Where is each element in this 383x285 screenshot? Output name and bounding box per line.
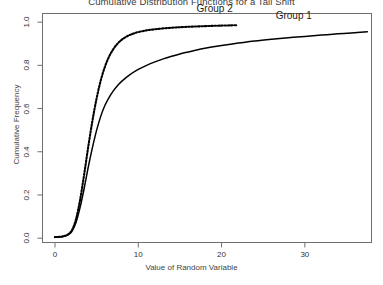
y-tick-label: 0.8 — [21, 56, 30, 74]
series-paths — [55, 25, 367, 237]
x-tick-label: 0 — [53, 250, 57, 259]
x-tick-label: 20 — [217, 250, 226, 259]
x-tick-label: 30 — [300, 250, 309, 259]
plot-area — [0, 0, 383, 285]
y-tick-label: 0.4 — [21, 143, 30, 161]
chart-figure: Cumulative Distribution Functions for a … — [0, 0, 383, 285]
y-tick-label: 1.0 — [21, 13, 30, 31]
series-line-1 — [55, 32, 367, 237]
x-tick-label: 10 — [134, 250, 143, 259]
y-axis-ticks — [38, 22, 43, 238]
x-axis-ticks — [55, 243, 305, 248]
x-axis-label: Value of Random Variable — [0, 263, 383, 272]
y-tick-label: 0.0 — [21, 229, 30, 247]
y-tick-label: 0.6 — [21, 100, 30, 118]
series-label-2: Group 2 — [197, 3, 233, 14]
y-tick-label: 0.2 — [21, 186, 30, 204]
series-label-1: Group 1 — [276, 10, 312, 21]
series-line-2 — [55, 25, 237, 237]
y-axis-label: Cumulative Frequency — [12, 55, 21, 195]
